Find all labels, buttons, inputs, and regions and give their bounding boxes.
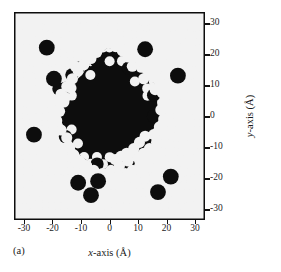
x-axis-title: x-axis (Å): [14, 247, 205, 258]
x-tick-label-1: -20: [46, 224, 59, 234]
y-axis-title: y-axis (Å): [244, 95, 255, 137]
y-axis-title-close: ): [244, 95, 255, 99]
x-tick-label-4: 10: [133, 224, 143, 234]
x-tick-label-6: 30: [190, 224, 200, 234]
y-tick-label-3: 0: [210, 111, 215, 121]
atomic-configuration-canvas: [14, 12, 205, 220]
plot-area: [14, 12, 205, 220]
figure-root: -30-20-100102030 3020100-10-20-30 x-axis…: [0, 0, 281, 272]
x-tick-label-3: 0: [107, 224, 112, 234]
y-tick-label-5: -20: [210, 173, 223, 183]
y-axis-title-variable: y: [244, 132, 255, 137]
y-tick-label-4: -10: [210, 142, 223, 152]
x-axis-title-rest: -axis (: [93, 247, 120, 258]
y-axis-title-unit: Å: [244, 98, 255, 106]
y-tick-label-1: 20: [210, 49, 220, 59]
x-tick-label-0: -30: [18, 224, 31, 234]
y-tick-label-0: 30: [210, 18, 220, 28]
panel-label: (a): [13, 245, 25, 256]
x-tick-label-5: 20: [162, 224, 172, 234]
x-axis-title-close: ): [127, 247, 131, 258]
x-tick-label-2: -10: [75, 224, 88, 234]
y-axis-title-rest: -axis (: [244, 106, 255, 133]
y-tick-label-6: -30: [210, 204, 223, 214]
y-tick-label-2: 10: [210, 80, 220, 90]
